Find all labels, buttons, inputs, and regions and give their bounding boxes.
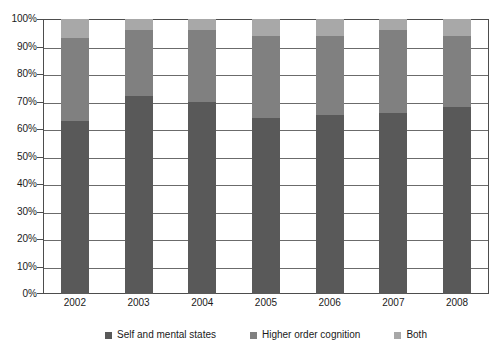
legend-swatch-icon [394,332,401,339]
legend-swatch-icon [250,332,257,339]
bar-segment [188,19,216,30]
bar-segment [252,36,280,119]
chart-legend: Self and mental statesHigher order cogni… [43,330,489,340]
bar-group [188,19,216,294]
bar-segment [61,38,89,121]
y-axis: 100%90%80%70%60%50%40%30%20%10%0% [0,19,37,294]
y-tick-label: 60% [17,124,37,134]
x-tick-label: 2005 [252,298,280,314]
y-tick-label: 20% [17,234,37,244]
x-tick-label: 2002 [61,298,89,314]
bar-group [252,19,280,294]
legend-label: Self and mental states [117,330,216,340]
y-tick-label: 70% [17,97,37,107]
bar-segment [443,107,471,294]
y-tick-label: 80% [17,69,37,79]
y-tick-label: 50% [17,152,37,162]
x-tick-label: 2004 [188,298,216,314]
bar-segment [443,19,471,36]
y-tick-label: 10% [17,262,37,272]
bar-group [443,19,471,294]
legend-label: Higher order cognition [262,330,360,340]
legend-swatch-icon [105,332,112,339]
y-tick-label: 40% [17,179,37,189]
y-tick-label: 90% [17,42,37,52]
bar-segment [316,36,344,116]
bar-segment [125,30,153,96]
bar-segment [443,36,471,108]
legend-item: Self and mental states [105,330,216,340]
bar-segment [61,121,89,294]
y-tick-label: 30% [17,207,37,217]
x-tick-label: 2007 [379,298,407,314]
bars-layer [43,19,489,294]
bar-group [61,19,89,294]
bar-segment [379,30,407,113]
bar-segment [316,19,344,36]
y-tick-label: 100% [11,14,37,24]
bar-segment [316,115,344,294]
bar-segment [125,96,153,294]
legend-label: Both [406,330,427,340]
stacked-bar-chart: 100%90%80%70%60%50%40%30%20%10%0% 200220… [0,0,499,355]
y-tick-label: 0% [23,289,37,299]
bar-group [316,19,344,294]
bar-segment [188,102,216,295]
legend-item: Higher order cognition [250,330,360,340]
bar-segment [125,19,153,30]
bar-group [379,19,407,294]
bar-segment [252,118,280,294]
x-tick-label: 2003 [125,298,153,314]
x-tick-label: 2006 [316,298,344,314]
bar-group [125,19,153,294]
x-tick-label: 2008 [443,298,471,314]
bar-segment [379,113,407,295]
legend-item: Both [394,330,427,340]
bar-segment [188,30,216,102]
x-axis: 2002200320042005200620072008 [43,298,489,314]
bar-segment [252,19,280,36]
bar-segment [379,19,407,30]
bar-segment [61,19,89,38]
